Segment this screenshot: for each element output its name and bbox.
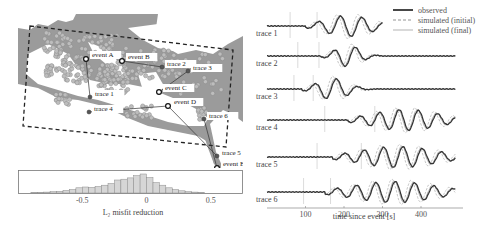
station-dot	[93, 34, 97, 38]
station-dot	[124, 46, 128, 50]
receiver-marker	[88, 95, 92, 99]
misfit-histogram	[18, 170, 243, 194]
station-dot	[42, 46, 46, 50]
histogram-tick-label: 0	[145, 196, 149, 205]
station-dot	[177, 71, 181, 75]
station-dot	[166, 49, 170, 53]
station-dot	[76, 73, 80, 77]
station-dot	[126, 114, 130, 118]
station-dot	[75, 81, 79, 85]
station-dot	[63, 63, 67, 67]
station-dot	[55, 40, 59, 44]
trace-1-label: trace 1	[95, 90, 114, 98]
trace-label: trace 6	[256, 195, 278, 204]
station-dot	[63, 70, 67, 74]
trace-4-label: trace 4	[94, 105, 113, 113]
station-dot	[76, 65, 80, 69]
histogram-tick-label: 0.5	[206, 196, 216, 205]
receiver-marker	[215, 154, 219, 158]
legend: observedsimulated (initial)simulated (fi…	[393, 6, 475, 35]
station-dot	[130, 76, 134, 80]
histogram-bar	[172, 190, 178, 194]
station-dot	[100, 63, 104, 67]
station-dot	[110, 38, 114, 42]
station-dot	[203, 80, 207, 84]
station-dot	[202, 106, 206, 110]
station-dot	[220, 57, 224, 61]
trace-label: trace 4	[256, 123, 278, 132]
legend-label: simulated (initial)	[418, 16, 475, 25]
time-axis-label: time since event [s]	[333, 212, 395, 221]
station-dot	[167, 72, 171, 76]
observed-waveform	[267, 48, 455, 67]
station-dot	[115, 66, 119, 70]
station-dot	[126, 87, 130, 91]
histogram-tick-label: -0.5	[76, 196, 89, 205]
histogram-bar	[192, 192, 198, 193]
station-dot	[135, 110, 139, 114]
trace-label: trace 2	[256, 59, 278, 68]
station-dot	[67, 61, 71, 65]
histogram-bar	[63, 190, 69, 193]
station-dot	[139, 71, 143, 75]
histogram-bar	[159, 185, 165, 193]
trace-6-label: trace 6	[209, 112, 228, 120]
histogram-bar	[153, 183, 159, 193]
station-dot	[219, 88, 223, 92]
station-dot	[198, 57, 202, 61]
station-dot	[125, 106, 129, 110]
trace-label: trace 1	[256, 29, 278, 38]
station-dot	[137, 66, 141, 70]
station-dot	[194, 85, 198, 89]
observed-waveform	[267, 110, 455, 131]
event-marker	[120, 59, 125, 64]
event-b-label: event B	[128, 53, 150, 61]
observed-waveform	[267, 79, 455, 99]
station-dot	[148, 76, 152, 80]
station-dot	[203, 53, 207, 57]
histogram-bar	[50, 192, 56, 193]
histogram-bar	[76, 188, 82, 193]
station-dot	[57, 31, 61, 35]
station-dot	[144, 74, 148, 78]
event-marker	[84, 57, 89, 62]
station-dot	[218, 52, 222, 56]
histogram-bar	[127, 178, 133, 193]
histogram-bar	[108, 184, 114, 194]
time-tick-label: 400	[415, 210, 427, 219]
station-dot	[58, 51, 62, 55]
station-dot	[99, 36, 103, 40]
trace-label: trace 5	[256, 160, 278, 169]
station-dot	[89, 68, 93, 72]
station-dot	[65, 78, 69, 82]
station-dot	[49, 72, 53, 76]
trace-2-label: trace 2	[167, 60, 186, 68]
station-dot	[145, 114, 149, 118]
station-dot	[172, 53, 176, 57]
station-dot	[82, 71, 86, 75]
receiver-marker	[186, 69, 190, 73]
station-dot	[141, 115, 145, 119]
histogram-bar	[89, 187, 95, 193]
station-dot	[44, 74, 48, 78]
station-dot	[211, 82, 215, 86]
station-dot	[44, 31, 48, 35]
histogram-bar	[185, 192, 191, 193]
station-dot	[129, 105, 133, 109]
histogram-bar	[57, 191, 63, 193]
station-dot	[49, 40, 53, 44]
station-dot	[54, 92, 58, 96]
station-dot	[126, 80, 130, 84]
histogram-bar	[114, 180, 120, 193]
station-dot	[116, 77, 120, 81]
station-dot	[87, 65, 91, 69]
histogram-bar	[44, 192, 50, 193]
station-dot	[68, 97, 72, 101]
station-dot	[43, 37, 47, 41]
station-dot	[104, 43, 108, 47]
station-dot	[67, 42, 71, 46]
waveform-traces: trace 1trace 2trace 3trace 4trace 5trace…	[256, 12, 455, 205]
histogram-bar	[95, 187, 101, 194]
histogram-bar	[69, 190, 75, 194]
station-dot	[64, 101, 68, 105]
